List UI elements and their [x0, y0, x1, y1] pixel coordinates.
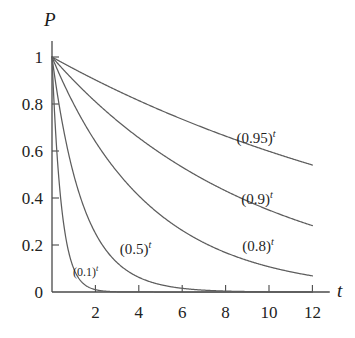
curve-paths	[52, 57, 312, 292]
exponential-decay-chart: P t 00.20.40.60.81 24681012 (0.95)t(0.9)…	[0, 0, 355, 338]
curve-label-0-5: (0.5)t	[120, 241, 152, 256]
x-tick-label: 12	[304, 304, 321, 321]
y-tick-label: 0	[35, 284, 44, 301]
x-tick-label: 8	[221, 304, 230, 321]
x-axis-label: t	[337, 281, 342, 300]
plot-area	[0, 0, 355, 338]
curve-label-base: (0.1)	[73, 265, 96, 279]
curve-label-exponent: t	[148, 238, 151, 249]
x-tick-label: 4	[135, 304, 144, 321]
y-tick-label: 0.6	[22, 143, 43, 160]
y-tick-label: 1	[35, 49, 44, 66]
y-tick-label: 0.8	[22, 96, 43, 113]
curve-label-exponent: t	[271, 236, 274, 247]
curve-label-exponent: t	[270, 189, 273, 200]
curve-0-5	[52, 57, 312, 292]
y-tick-label: 0.2	[22, 237, 43, 254]
y-tick-label: 0.4	[22, 190, 43, 207]
x-tick-label: 6	[178, 304, 187, 321]
curve-0-1	[52, 57, 312, 292]
tick-marks	[52, 57, 312, 292]
curve-label-base: (0.5)	[120, 240, 149, 256]
curve-label-0-8: (0.8)t	[242, 239, 274, 254]
curve-label-exponent: t	[96, 264, 98, 273]
curve-label-0-1: (0.1)t	[73, 266, 98, 278]
curve-label-base: (0.95)	[236, 130, 272, 146]
curve-label-base: (0.8)	[242, 238, 271, 254]
curve-label-exponent: t	[273, 128, 276, 139]
curve-label-base: (0.9)	[241, 191, 270, 207]
y-axis-label: P	[44, 10, 56, 29]
curve-0-95	[52, 57, 312, 165]
curve-label-0-9: (0.9)t	[241, 192, 273, 207]
curve-label-0-95: (0.95)t	[236, 131, 275, 146]
x-tick-label: 10	[261, 304, 278, 321]
x-tick-label: 2	[91, 304, 100, 321]
